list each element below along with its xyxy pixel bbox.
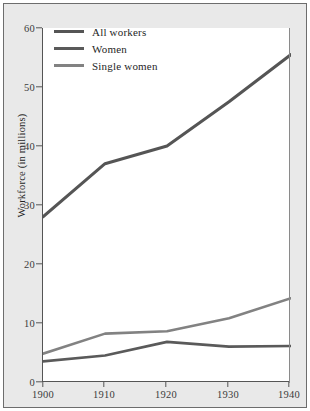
legend-swatch-single-women bbox=[54, 64, 84, 67]
legend-label-all-workers: All workers bbox=[92, 26, 146, 38]
y-tick-label: 0 bbox=[30, 377, 35, 388]
x-tick-mark bbox=[103, 382, 104, 387]
x-tick-label: 1940 bbox=[278, 389, 300, 400]
plot-right-edge bbox=[289, 28, 290, 383]
y-tick-label: 60 bbox=[24, 23, 35, 34]
plot-area bbox=[42, 28, 290, 382]
y-tick-label: 10 bbox=[24, 318, 35, 329]
legend-item-women: Women bbox=[54, 42, 158, 55]
x-tick-mark bbox=[42, 382, 43, 387]
legend-swatch-all-workers bbox=[54, 30, 84, 33]
y-tick-label: 20 bbox=[24, 259, 35, 270]
x-tick-label: 1930 bbox=[217, 389, 239, 400]
legend-label-women: Women bbox=[92, 43, 127, 55]
legend-item-single-women: Single women bbox=[54, 59, 158, 72]
y-tick-label: 30 bbox=[24, 200, 35, 211]
x-tick-mark bbox=[227, 382, 228, 387]
legend-item-all-workers: All workers bbox=[54, 25, 158, 38]
y-tick-label: 50 bbox=[24, 82, 35, 93]
line-women bbox=[43, 342, 291, 361]
chart-legend: All workers Women Single women bbox=[54, 25, 158, 72]
legend-swatch-women bbox=[54, 47, 84, 50]
x-tick-label: 1920 bbox=[155, 389, 177, 400]
x-tick-label: 1900 bbox=[32, 389, 54, 400]
chart-figure: Workforce (in millions) 60 50 40 30 20 1… bbox=[0, 0, 310, 411]
x-tick-mark bbox=[165, 382, 166, 387]
x-tick-label: 1910 bbox=[93, 389, 115, 400]
legend-label-single-women: Single women bbox=[92, 60, 158, 72]
line-all-workers bbox=[43, 55, 291, 217]
y-tick-label: 40 bbox=[24, 141, 35, 152]
data-lines bbox=[43, 28, 291, 382]
y-axis-ticks: 60 50 40 30 20 10 0 bbox=[10, 0, 35, 411]
